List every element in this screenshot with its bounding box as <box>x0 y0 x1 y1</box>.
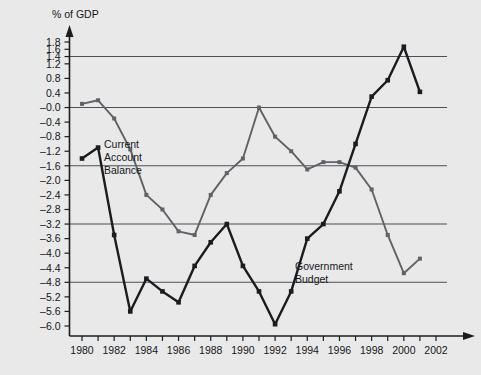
y-axis-tick-label: –4.0 <box>40 247 61 259</box>
y-axis-tick-label: –2.4 <box>40 189 61 201</box>
x-axis-tick-label: 1984 <box>135 344 159 356</box>
x-axis-tick-label: 2002 <box>424 344 448 356</box>
y-axis-unit-label: % of GDP <box>52 8 99 20</box>
x-axis-tick-label: 1998 <box>360 344 384 356</box>
data-point-marker <box>112 116 116 120</box>
government-budget-annotation-line-1: Government <box>295 260 353 272</box>
y-axis-tick-label: –4.4 <box>40 262 61 274</box>
data-point-marker <box>354 166 358 170</box>
data-point-marker <box>337 189 342 194</box>
x-axis-tick-label: 1982 <box>103 344 127 356</box>
y-axis-tick-label: –1.2 <box>40 145 61 157</box>
data-point-marker <box>193 233 197 237</box>
government-budget-annotation-line-2: Budget <box>295 273 328 285</box>
current-account-annotation: Current Account Balance <box>104 138 142 176</box>
data-point-marker <box>305 236 310 241</box>
data-point-marker <box>160 207 164 211</box>
data-point-marker <box>418 90 423 95</box>
data-point-marker <box>273 322 278 327</box>
y-axis-tick-label: –4.8 <box>40 276 61 288</box>
data-point-marker <box>177 229 181 233</box>
data-point-marker <box>96 98 100 102</box>
chart-canvas: 1.81.61.41.20.80.4–0.0–0.4–0.8–1.2–1.6–2… <box>0 0 481 375</box>
data-point-marker <box>289 289 294 294</box>
data-point-marker <box>241 264 246 269</box>
data-point-marker <box>80 156 85 161</box>
data-point-marker <box>96 145 101 150</box>
y-axis-tick-label: –0.0 <box>40 101 61 113</box>
data-point-marker <box>370 187 374 191</box>
data-point-marker <box>192 264 197 269</box>
data-point-marker <box>160 289 165 294</box>
data-point-marker <box>305 167 309 171</box>
x-axis-tick-label: 1996 <box>328 344 352 356</box>
x-axis-tick-label: 1980 <box>70 344 94 356</box>
data-point-marker <box>144 276 149 281</box>
current-account-annotation-line-1: Current <box>104 138 139 150</box>
data-point-marker <box>337 160 341 164</box>
y-axis-tick-label: –3.2 <box>40 218 61 230</box>
data-point-marker <box>321 160 325 164</box>
y-axis-tick-label: –5.2 <box>40 291 61 303</box>
data-point-marker <box>353 142 358 147</box>
data-point-marker <box>241 157 245 161</box>
data-point-marker <box>112 233 117 238</box>
y-axis-tick-label: –6.0 <box>40 320 61 332</box>
y-axis-tick-label: 0.4 <box>46 87 61 99</box>
x-axis-tick-label: 1990 <box>231 344 255 356</box>
data-point-marker <box>144 193 148 197</box>
x-axis-tick-label: 1986 <box>167 344 191 356</box>
data-point-marker <box>209 193 213 197</box>
data-point-marker <box>402 44 407 49</box>
chart-figure: 1.81.61.41.20.80.4–0.0–0.4–0.8–1.2–1.6–2… <box>0 0 481 375</box>
data-point-marker <box>176 300 181 305</box>
data-point-marker <box>369 94 374 99</box>
y-axis-tick-label: –2.8 <box>40 203 61 215</box>
y-axis-tick-label: –0.8 <box>40 130 61 142</box>
data-point-marker <box>128 309 133 314</box>
x-axis-tick-label: 1994 <box>296 344 320 356</box>
data-point-marker <box>289 149 293 153</box>
data-point-marker <box>385 78 390 83</box>
data-point-marker <box>225 222 230 227</box>
current-account-annotation-line-3: Balance <box>104 164 142 176</box>
x-axis-tick-label: 1992 <box>263 344 287 356</box>
data-point-marker <box>321 222 326 227</box>
data-point-marker <box>402 271 406 275</box>
data-point-marker <box>80 102 84 106</box>
y-axis-tick-label: –0.4 <box>40 116 61 128</box>
data-point-marker <box>208 240 213 245</box>
y-axis-tick-label: 1.2 <box>46 58 61 70</box>
y-axis-tick-label: –3.6 <box>40 232 61 244</box>
data-point-marker <box>273 135 277 139</box>
data-point-marker <box>386 233 390 237</box>
data-point-marker <box>257 289 262 294</box>
data-point-marker <box>257 106 261 110</box>
y-axis-tick-label: 0.8 <box>46 72 61 84</box>
y-axis-tick-label: –2.0 <box>40 174 61 186</box>
y-axis-tick-label: –5.6 <box>40 305 61 317</box>
data-point-marker <box>418 257 422 261</box>
x-axis-tick-label: 2000 <box>392 344 416 356</box>
y-axis-tick-label: –1.6 <box>40 160 61 172</box>
x-axis-tick-label: 1988 <box>199 344 223 356</box>
data-point-marker <box>225 171 229 175</box>
current-account-annotation-line-2: Account <box>104 151 142 163</box>
